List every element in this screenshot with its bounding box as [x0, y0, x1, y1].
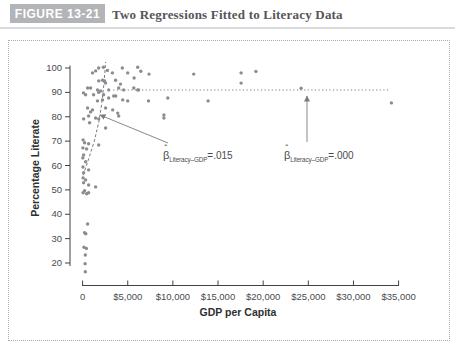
data-point	[162, 113, 165, 116]
data-point	[88, 121, 91, 124]
data-point	[239, 81, 242, 84]
x-tick-label: $15,000	[201, 291, 235, 302]
data-point	[84, 253, 87, 256]
data-point	[107, 96, 110, 99]
data-point	[89, 86, 92, 89]
beta-literacy-gdp-000-label: βLiteracy–GDP=.000	[284, 149, 354, 164]
data-point	[116, 111, 119, 114]
data-point	[121, 98, 124, 101]
beta-hat-accent: ˆ	[164, 143, 167, 153]
x-tick-label: $25,000	[291, 291, 325, 302]
y-tick-label: 70	[51, 135, 62, 146]
beta-literacy-gdp-015-arrow	[100, 115, 168, 143]
data-point	[136, 88, 139, 91]
data-point	[147, 72, 150, 75]
data-point	[121, 66, 124, 69]
data-point	[92, 93, 95, 96]
data-point	[119, 82, 122, 85]
data-point	[84, 270, 87, 273]
x-tick-label: $10,000	[156, 291, 190, 302]
data-point	[104, 106, 107, 109]
data-point	[97, 91, 100, 94]
data-point	[97, 117, 100, 120]
y-tick-label: 30	[51, 233, 62, 244]
data-point	[87, 183, 90, 186]
x-tick-label: $20,000	[246, 291, 280, 302]
data-point	[82, 117, 85, 120]
data-point	[117, 114, 120, 117]
data-point	[87, 168, 90, 171]
data-point	[132, 86, 135, 89]
data-point	[106, 69, 109, 72]
data-point	[122, 88, 125, 91]
data-point	[126, 99, 129, 102]
data-point	[82, 181, 85, 184]
data-point	[97, 79, 100, 82]
data-point	[86, 106, 89, 109]
data-point	[84, 232, 87, 235]
data-point	[139, 70, 142, 73]
data-point	[162, 116, 165, 119]
data-point	[94, 116, 97, 119]
data-point	[147, 99, 150, 102]
data-point	[84, 93, 87, 96]
data-point	[112, 94, 115, 97]
x-tick-label: 0	[80, 291, 85, 302]
data-point	[192, 72, 195, 75]
y-tick-label: 80	[51, 111, 62, 122]
data-point	[87, 142, 90, 145]
data-point	[83, 141, 86, 144]
data-point	[96, 99, 99, 102]
data-point	[239, 71, 242, 74]
data-point	[85, 247, 88, 250]
data-point	[85, 147, 88, 150]
data-point	[132, 76, 135, 79]
data-point	[94, 185, 97, 188]
data-point	[111, 71, 114, 74]
data-point	[104, 126, 107, 129]
data-point	[81, 165, 84, 168]
data-point	[102, 66, 105, 69]
y-tick-label: 50	[51, 184, 62, 195]
data-point	[89, 110, 92, 113]
data-point	[97, 66, 100, 69]
data-point	[103, 79, 106, 82]
x-tick-label: $30,000	[336, 291, 370, 302]
data-point	[136, 66, 139, 69]
data-point	[81, 191, 84, 194]
data-point	[82, 171, 85, 174]
data-point	[91, 71, 94, 74]
x-tick-label: $5,000	[113, 291, 142, 302]
data-point	[111, 108, 114, 111]
data-point	[84, 178, 87, 181]
x-axis-title: GDP per Capita	[200, 306, 277, 318]
data-point	[81, 156, 84, 159]
beta-literacy-gdp-015-label: βLiteracy–GDP=.015	[163, 149, 233, 164]
y-tick-label: 60	[51, 160, 62, 171]
data-point	[166, 96, 169, 99]
data-point	[84, 160, 87, 163]
data-point	[81, 146, 84, 149]
data-point	[126, 71, 129, 74]
data-point	[83, 262, 86, 265]
data-point	[107, 88, 110, 91]
y-tick-label: 100	[46, 62, 62, 73]
data-point	[97, 143, 100, 146]
data-point	[254, 70, 257, 73]
x-tick-label: $35,000	[381, 291, 415, 302]
data-point	[87, 191, 90, 194]
y-axis-title: Percentage Literate	[29, 119, 41, 217]
data-point	[102, 93, 105, 96]
beta-hat-accent: ˆ	[285, 143, 288, 153]
figure-13-21: FIGURE 13-21 Two Regressions Fitted to L…	[0, 0, 455, 354]
data-point	[81, 138, 84, 141]
data-point	[101, 98, 104, 101]
y-tick-label: 20	[51, 257, 62, 268]
data-point	[206, 99, 209, 102]
data-point	[390, 101, 393, 104]
data-point	[94, 69, 97, 72]
y-tick-label: 40	[51, 208, 62, 219]
data-point	[87, 114, 90, 117]
literacy-gdp-scatter-plot: 0$5,000$10,000$15,000$20,000$25,000$30,0…	[0, 0, 455, 354]
data-point	[86, 86, 89, 89]
